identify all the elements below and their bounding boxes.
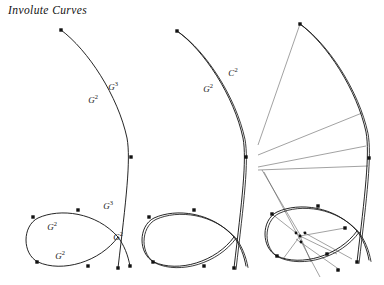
continuity-label-order: 3 xyxy=(110,199,113,206)
continuity-label-order: 2 xyxy=(95,93,98,100)
control-point-marker xyxy=(175,29,178,32)
control-point-marker xyxy=(147,215,150,218)
control-point-marker xyxy=(300,241,303,244)
control-point-marker xyxy=(202,264,205,267)
continuity-label-order: 2 xyxy=(62,249,65,256)
continuity-label-order: 2 xyxy=(210,82,213,89)
control-point-marker xyxy=(31,215,34,218)
continuity-label: G2 xyxy=(55,251,65,261)
control-point-marker xyxy=(325,252,328,255)
curve-teardrop-loop xyxy=(142,213,234,266)
panel-middle xyxy=(142,29,248,269)
construction-ray xyxy=(296,239,340,270)
panel-right xyxy=(258,22,371,277)
control-point-marker xyxy=(151,260,154,263)
construction-ray xyxy=(258,146,366,167)
continuity-label: G3 xyxy=(108,82,118,92)
construction-ray xyxy=(300,236,337,254)
curve-teardrop-loop xyxy=(265,207,357,260)
continuity-label: G2 xyxy=(113,232,123,242)
continuity-label: G2 xyxy=(203,84,213,94)
control-point-marker xyxy=(128,264,131,267)
construction-ray xyxy=(300,236,311,262)
diagram-canvas xyxy=(0,0,384,285)
page-title: Involute Curves xyxy=(8,4,87,16)
curve-teardrop-loop-offset xyxy=(144,214,236,267)
control-point-marker xyxy=(336,268,339,271)
continuity-label: G2 xyxy=(88,95,98,105)
control-point-marker xyxy=(355,260,358,263)
control-point-marker xyxy=(244,155,247,158)
continuity-label-order: 3 xyxy=(115,80,118,87)
control-point-marker xyxy=(232,266,235,269)
curve-main-arc-offset xyxy=(302,25,369,263)
control-point-marker xyxy=(299,235,302,238)
control-point-marker xyxy=(367,156,370,159)
curve-teardrop-loop xyxy=(26,213,118,266)
control-point-marker xyxy=(304,232,307,235)
continuity-label: C2 xyxy=(228,68,237,78)
control-point-marker xyxy=(116,266,119,269)
continuity-label: G3 xyxy=(103,201,113,211)
control-point-marker xyxy=(316,204,319,207)
control-point-marker xyxy=(192,208,195,211)
control-point-marker xyxy=(76,208,79,211)
control-point-marker xyxy=(270,212,273,215)
control-point-marker xyxy=(275,254,278,257)
construction-ray xyxy=(300,228,345,236)
continuity-label-order: 2 xyxy=(234,66,237,73)
control-point-marker xyxy=(129,155,132,158)
control-point-marker xyxy=(343,226,346,229)
continuity-label-order: 2 xyxy=(120,230,123,237)
control-point-marker xyxy=(35,260,38,263)
control-point-marker xyxy=(298,22,301,25)
construction-ray xyxy=(258,113,362,155)
continuity-label-order: 2 xyxy=(54,220,57,227)
involute-curves-figure: Involute Curves G2G3G3G2G2G2G2C2 xyxy=(0,0,384,285)
control-point-marker xyxy=(295,232,298,235)
construction-ray xyxy=(258,24,300,145)
construction-ray xyxy=(283,236,300,259)
control-point-marker xyxy=(86,264,89,267)
continuity-label: G2 xyxy=(47,222,57,232)
control-point-marker xyxy=(59,28,62,31)
construction-ray xyxy=(258,166,368,170)
curve-teardrop-loop-offset xyxy=(267,208,359,261)
